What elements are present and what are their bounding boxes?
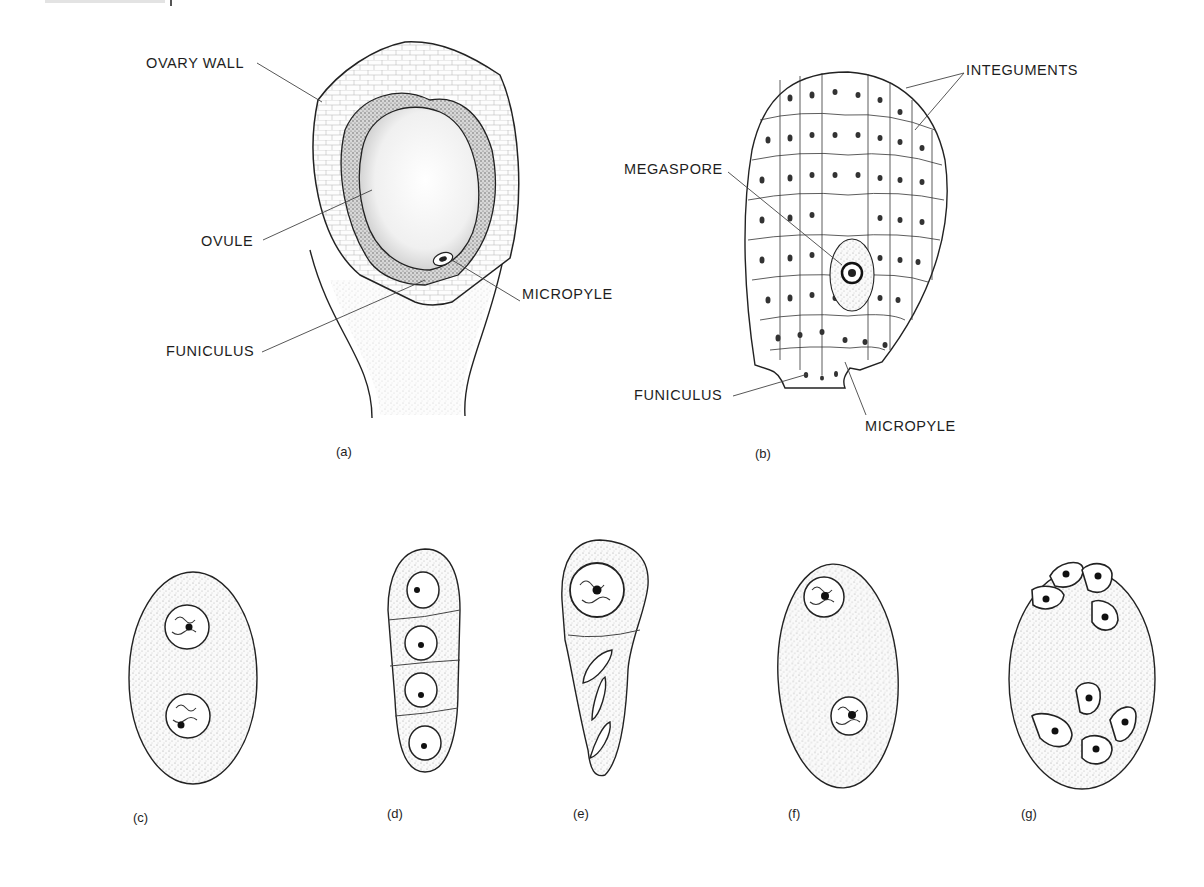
label-ovule: OVULE xyxy=(201,233,253,249)
panel-a-ovary-drawing xyxy=(257,42,520,418)
caption-g: (g) xyxy=(1021,806,1037,821)
panel-b-ovule-drawing xyxy=(728,72,964,415)
panel-f-two-nucleate-sac xyxy=(772,561,904,791)
panel-e-degenerating-megaspores xyxy=(562,540,648,776)
label-micropyle-b: MICROPYLE xyxy=(865,418,956,434)
label-micropyle-a: MICROPYLE xyxy=(522,286,613,302)
caption-f: (f) xyxy=(788,806,800,821)
panel-d-four-cell-linear xyxy=(388,549,460,772)
label-ovary-wall: OVARY WALL xyxy=(146,55,244,71)
caption-b: (b) xyxy=(755,446,771,461)
label-funiculus-b: FUNICULUS xyxy=(634,387,722,403)
label-megaspore: MEGASPORE xyxy=(624,161,723,177)
caption-c: (c) xyxy=(133,810,148,825)
ovule-development-figure xyxy=(0,0,1204,887)
label-funiculus-a: FUNICULUS xyxy=(166,343,254,359)
label-integuments: INTEGUMENTS xyxy=(966,62,1078,78)
caption-a: (a) xyxy=(336,444,352,459)
caption-d: (d) xyxy=(387,806,403,821)
panel-c-two-nucleate xyxy=(129,572,257,784)
panel-g-eight-nucleate-sac xyxy=(1009,562,1155,789)
caption-e: (e) xyxy=(573,806,589,821)
